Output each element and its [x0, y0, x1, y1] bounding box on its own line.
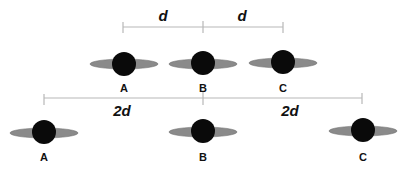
top-right-distance-label: d [237, 7, 247, 24]
top-planet-b [169, 51, 237, 75]
top-planet-c-label: C [279, 82, 287, 94]
bottom-planet-b-label: B [199, 151, 207, 163]
planet-spacing-diagram: d d A B C 2d 2d A B C [0, 0, 411, 171]
bottom-planet-c-label: C [359, 151, 367, 163]
top-planet-c [249, 50, 317, 74]
bottom-left-distance-label: 2d [112, 102, 131, 119]
top-left-distance-label: d [158, 7, 168, 24]
top-planet-a [90, 52, 158, 76]
top-distance-bracket [123, 21, 283, 33]
bottom-right-distance-label: 2d [280, 102, 299, 119]
bottom-planet-a [10, 120, 78, 144]
bottom-planet-b [169, 119, 237, 143]
bottom-planet-c [329, 118, 397, 142]
top-planet-a-label: A [120, 82, 128, 94]
bottom-distance-bracket [44, 92, 362, 105]
bottom-planet-a-label: A [40, 151, 48, 163]
